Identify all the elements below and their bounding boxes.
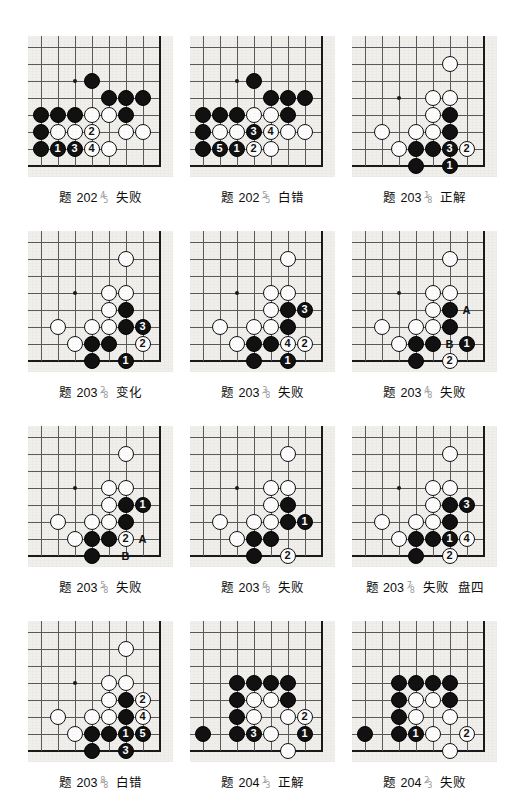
go-stone-white[interactable]	[246, 319, 262, 335]
go-stone-black[interactable]	[229, 107, 245, 123]
go-stone-black[interactable]	[84, 73, 100, 89]
go-stone-white[interactable]	[212, 319, 228, 335]
go-board[interactable]: 321	[28, 231, 173, 372]
go-stone-white[interactable]	[101, 141, 117, 157]
go-stone-black[interactable]	[118, 107, 134, 123]
go-stone-white[interactable]	[101, 302, 117, 318]
go-stone-white[interactable]: 2	[442, 548, 458, 564]
go-stone-white[interactable]	[442, 709, 458, 725]
go-board[interactable]: 3421	[190, 231, 335, 372]
go-stone-black[interactable]	[442, 497, 458, 513]
go-board[interactable]: 3142	[352, 426, 497, 567]
go-stone-white[interactable]	[67, 726, 83, 742]
go-stone-black[interactable]	[280, 497, 296, 513]
go-stone-white[interactable]	[84, 709, 100, 725]
go-stone-white[interactable]	[442, 446, 458, 462]
go-stone-black[interactable]	[442, 124, 458, 140]
go-board[interactable]: 34512	[190, 36, 335, 177]
go-stone-black[interactable]	[297, 90, 313, 106]
go-stone-white[interactable]	[118, 124, 134, 140]
go-stone-white[interactable]	[229, 124, 245, 140]
go-stone-black[interactable]	[84, 726, 100, 742]
go-stone-white[interactable]	[118, 641, 134, 657]
go-stone-black[interactable]	[263, 531, 279, 547]
go-stone-white[interactable]	[212, 514, 228, 530]
go-stone-black[interactable]: 5	[135, 726, 151, 742]
go-stone-black[interactable]	[229, 692, 245, 708]
go-stone-black[interactable]: 1	[229, 141, 245, 157]
go-stone-white[interactable]	[246, 514, 262, 530]
go-stone-white[interactable]	[280, 743, 296, 759]
go-stone-white[interactable]	[408, 124, 424, 140]
go-stone-white[interactable]	[67, 336, 83, 352]
go-stone-white[interactable]	[84, 107, 100, 123]
go-stone-black[interactable]	[442, 319, 458, 335]
go-stone-white[interactable]	[442, 90, 458, 106]
go-stone-black[interactable]	[246, 336, 262, 352]
go-board[interactable]: AB12	[352, 231, 497, 372]
go-stone-white[interactable]	[263, 141, 279, 157]
go-stone-white[interactable]	[263, 319, 279, 335]
go-stone-white[interactable]	[374, 514, 390, 530]
go-stone-black[interactable]: 5	[212, 141, 228, 157]
go-board[interactable]: AB12	[28, 426, 173, 567]
go-stone-black[interactable]	[195, 124, 211, 140]
go-stone-black[interactable]	[391, 709, 407, 725]
go-stone-white[interactable]	[425, 514, 441, 530]
go-stone-black[interactable]	[280, 675, 296, 691]
go-stone-white[interactable]	[280, 285, 296, 301]
go-stone-white[interactable]	[280, 251, 296, 267]
go-stone-black[interactable]	[118, 319, 134, 335]
go-stone-black[interactable]: 1	[118, 726, 134, 742]
go-stone-white[interactable]: 2	[459, 726, 475, 742]
go-stone-black[interactable]	[195, 726, 211, 742]
go-stone-black[interactable]	[246, 531, 262, 547]
go-stone-black[interactable]	[442, 675, 458, 691]
go-stone-black[interactable]	[425, 531, 441, 547]
go-stone-black[interactable]	[33, 107, 49, 123]
go-stone-white[interactable]	[212, 124, 228, 140]
go-stone-white[interactable]	[246, 107, 262, 123]
go-stone-white[interactable]	[84, 514, 100, 530]
go-stone-white[interactable]	[442, 251, 458, 267]
go-stone-black[interactable]	[408, 548, 424, 564]
go-stone-black[interactable]	[408, 675, 424, 691]
go-board[interactable]: 321	[352, 36, 497, 177]
go-stone-black[interactable]: 1	[50, 141, 66, 157]
go-stone-white[interactable]	[425, 285, 441, 301]
go-stone-black[interactable]	[408, 141, 424, 157]
go-stone-white[interactable]	[374, 319, 390, 335]
go-stone-black[interactable]	[280, 90, 296, 106]
go-stone-white[interactable]: 2	[442, 353, 458, 369]
go-stone-black[interactable]: 3	[442, 141, 458, 157]
go-stone-white[interactable]	[425, 692, 441, 708]
go-stone-black[interactable]	[101, 531, 117, 547]
go-stone-white[interactable]	[391, 336, 407, 352]
go-stone-black[interactable]	[425, 336, 441, 352]
go-stone-white[interactable]: 4	[135, 709, 151, 725]
go-stone-white[interactable]: 2	[118, 531, 134, 547]
go-stone-white[interactable]	[263, 692, 279, 708]
go-stone-white[interactable]	[280, 446, 296, 462]
go-stone-white[interactable]: 4	[459, 531, 475, 547]
go-stone-black[interactable]	[391, 675, 407, 691]
go-stone-black[interactable]: 3	[246, 124, 262, 140]
go-stone-white[interactable]	[442, 56, 458, 72]
go-stone-black[interactable]: 1	[135, 497, 151, 513]
go-stone-black[interactable]	[408, 336, 424, 352]
go-stone-black[interactable]	[195, 141, 211, 157]
go-stone-black[interactable]	[84, 548, 100, 564]
go-stone-white[interactable]	[101, 285, 117, 301]
go-stone-white[interactable]	[297, 124, 313, 140]
go-stone-black[interactable]	[67, 107, 83, 123]
go-stone-white[interactable]	[408, 709, 424, 725]
go-stone-black[interactable]	[118, 302, 134, 318]
go-stone-black[interactable]	[229, 675, 245, 691]
go-stone-white[interactable]	[425, 726, 441, 742]
go-stone-white[interactable]	[442, 480, 458, 496]
go-stone-white[interactable]	[263, 514, 279, 530]
go-stone-black[interactable]: 1	[442, 158, 458, 174]
go-stone-white[interactable]	[229, 531, 245, 547]
go-stone-white[interactable]	[263, 726, 279, 742]
go-stone-white[interactable]: 4	[280, 336, 296, 352]
